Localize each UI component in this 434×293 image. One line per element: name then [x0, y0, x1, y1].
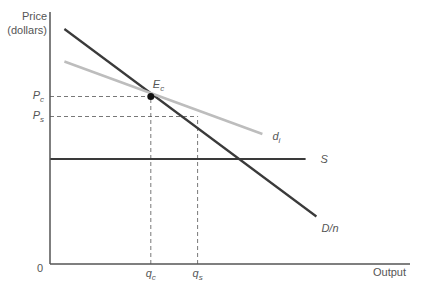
- series-label-d-i: di: [272, 130, 280, 145]
- quantity-label-s: qs: [193, 267, 203, 282]
- quantity-label-c: qc: [146, 267, 156, 282]
- series-label-d-n: D/n: [321, 222, 338, 234]
- supply-demand-diagram: PcPsqcqsD/ndiSEc Price (dollars) Output …: [0, 0, 434, 293]
- series-line-d-n: [64, 29, 316, 217]
- x-axis-label: Output: [373, 266, 406, 278]
- equilibrium-label-c: Ec: [153, 78, 164, 93]
- y-axis-label-line2: (dollars): [7, 24, 47, 36]
- price-label-c: Pc: [33, 89, 44, 104]
- price-label-s: Ps: [33, 109, 44, 124]
- y-axis-label-line1: Price: [22, 10, 47, 22]
- origin-label: 0: [37, 262, 43, 274]
- series-line-d_i: [64, 62, 262, 135]
- series-label-s: S: [321, 153, 329, 165]
- equilibrium-point-c: [147, 93, 154, 100]
